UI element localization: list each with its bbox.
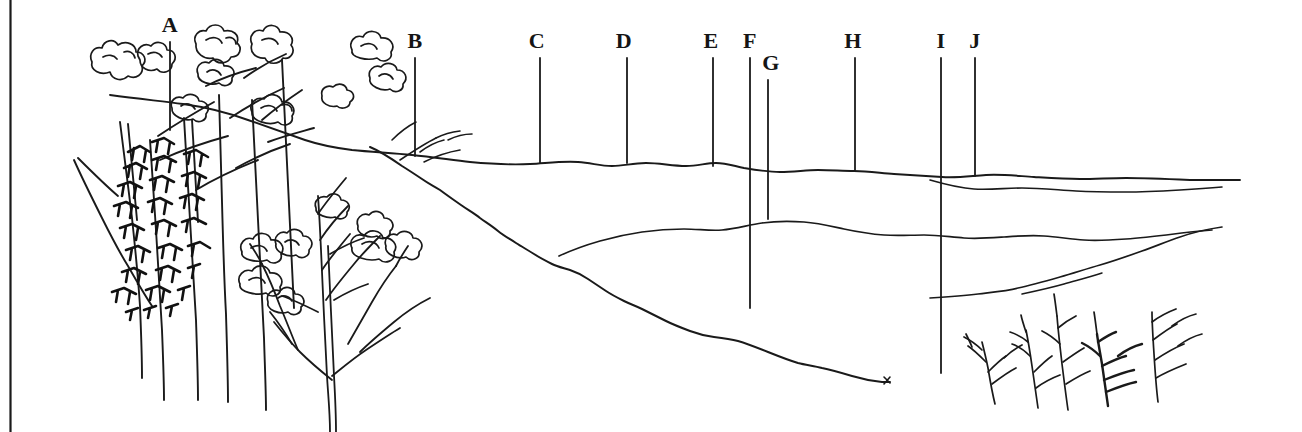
leader-lines — [170, 42, 975, 373]
horizon-secondary-ridge — [930, 180, 1222, 192]
descending-slope-line — [370, 147, 890, 382]
landscape-drawing-canvas — [0, 0, 1302, 432]
mid-ground-ridge-line — [559, 221, 1212, 256]
left-foreground-twigs — [392, 122, 472, 162]
landscape-profile-figure: A B C D E F G H I J — [0, 0, 1302, 432]
right-foreground-shrubs — [964, 294, 1202, 410]
center-foreground-shrub — [250, 178, 430, 432]
